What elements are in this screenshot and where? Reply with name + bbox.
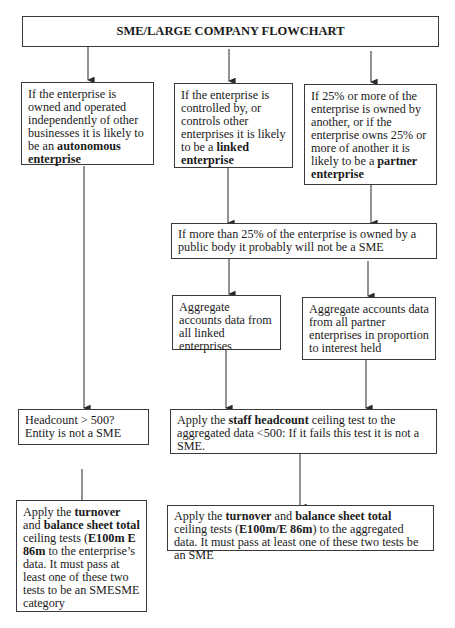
turnover-aggregated-bold-a: turnover bbox=[225, 509, 271, 523]
aggregate-partner-text: Aggregate accounts data from all partner… bbox=[309, 302, 429, 355]
public-body-box: If more than 25% of the enterprise is ow… bbox=[171, 223, 437, 259]
flowchart-title-text: SME/LARGE COMPANY FLOWCHART bbox=[116, 25, 344, 38]
linked-enterprise-box: If the enterprise is controlled by, or c… bbox=[174, 83, 293, 168]
turnover-autonomous-text-c: ceiling tests ( bbox=[23, 531, 88, 545]
turnover-autonomous-bold-a: turnover bbox=[74, 505, 120, 519]
turnover-autonomous-box: Apply the turnover and balance sheet tot… bbox=[16, 500, 147, 612]
headcount-aggregated-box: Apply the staff headcount ceiling test t… bbox=[170, 409, 437, 454]
turnover-autonomous-bold-b: balance sheet total bbox=[44, 518, 140, 532]
turnover-aggregated-bold-c: E100m/E 86m bbox=[239, 522, 312, 536]
aggregate-linked-text: Aggregate accounts data from all linked … bbox=[179, 300, 272, 353]
turnover-aggregated-box: Apply the turnover and balance sheet tot… bbox=[167, 505, 434, 551]
headcount-autonomous-box: Headcount > 500? Entity is not a SME bbox=[18, 409, 149, 445]
turnover-aggregated-text-b: and bbox=[271, 509, 295, 523]
headcount-aggregated-bold: staff headcount bbox=[228, 413, 308, 427]
aggregate-linked-box: Aggregate accounts data from all linked … bbox=[172, 295, 281, 350]
turnover-aggregated-text-a: Apply the bbox=[174, 509, 225, 523]
headcount-aggregated-text-a: Apply the bbox=[177, 413, 228, 427]
headcount-line-2: Entity is not a SME bbox=[25, 427, 142, 440]
flowchart-title: SME/LARGE COMPANY FLOWCHART bbox=[22, 16, 439, 47]
autonomous-enterprise-box: If the enterprise is owned and operated … bbox=[21, 82, 154, 165]
aggregate-partner-box: Aggregate accounts data from all partner… bbox=[302, 297, 436, 360]
turnover-autonomous-text-a: Apply the bbox=[23, 505, 74, 519]
public-body-text: If more than 25% of the enterprise is ow… bbox=[178, 227, 416, 254]
turnover-autonomous-text-b: and bbox=[23, 518, 44, 532]
turnover-aggregated-text-c: ceiling tests ( bbox=[174, 522, 239, 536]
partner-enterprise-box: If 25% or more of the enterprise is owne… bbox=[304, 84, 437, 185]
turnover-aggregated-bold-b: balance sheet total bbox=[295, 509, 391, 523]
